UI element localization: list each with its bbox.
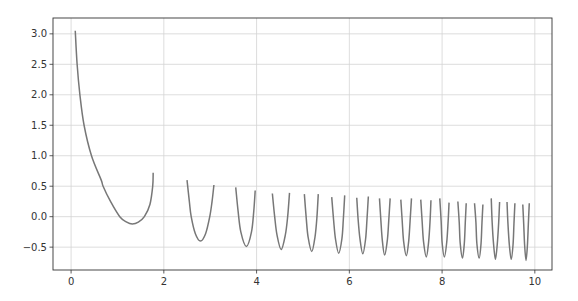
x-tick-label: 8 <box>439 276 445 287</box>
y-tick-label: 1.0 <box>31 150 47 161</box>
y-tick-label: 1.5 <box>31 120 47 131</box>
y-tick-label: 2.0 <box>31 89 47 100</box>
x-tick-label: 0 <box>68 276 74 287</box>
line-chart: 0246810 3.02.52.01.51.00.50.0−0.5 <box>0 0 578 301</box>
x-tick-label: 10 <box>528 276 541 287</box>
y-tick-label: 0.5 <box>31 181 47 192</box>
y-tick-label: −0.5 <box>23 242 47 253</box>
x-tick-label: 4 <box>253 276 259 287</box>
y-tick-label: 2.5 <box>31 59 47 70</box>
figure-background <box>0 0 578 301</box>
x-tick-label: 2 <box>161 276 167 287</box>
y-tick-label: 3.0 <box>31 28 47 39</box>
y-tick-label: 0.0 <box>31 211 47 222</box>
x-tick-label: 6 <box>346 276 352 287</box>
